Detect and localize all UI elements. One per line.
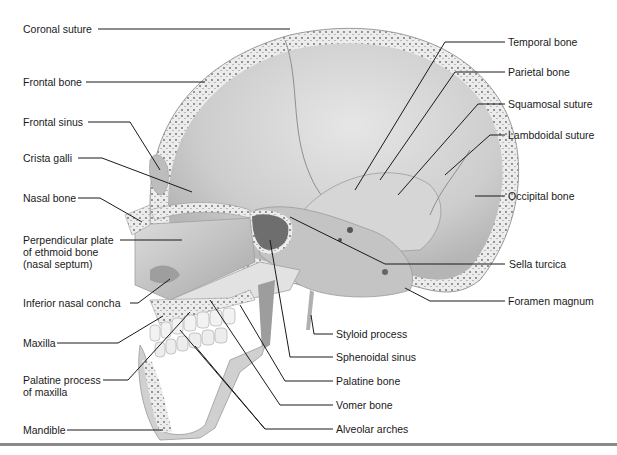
label-sphenoidal-sinus: Sphenoidal sinus bbox=[336, 351, 416, 363]
label-palatine-process: Palatine process of maxilla bbox=[23, 374, 101, 398]
skull-diagram: Coronal suture Frontal bone Frontal sinu… bbox=[0, 0, 617, 455]
label-coronal-suture: Coronal suture bbox=[23, 23, 92, 35]
label-styloid-process: Styloid process bbox=[336, 328, 407, 340]
label-maxilla: Maxilla bbox=[23, 337, 56, 349]
label-sella-turcica: Sella turcica bbox=[509, 258, 566, 270]
label-frontal-sinus: Frontal sinus bbox=[23, 116, 83, 128]
label-alveolar-arches: Alveolar arches bbox=[336, 423, 408, 435]
label-inferior-nasal-concha: Inferior nasal concha bbox=[23, 297, 120, 309]
label-perpendicular-plate: Perpendicular plate of ethmoid bone (nas… bbox=[23, 234, 113, 270]
label-temporal-bone: Temporal bone bbox=[508, 36, 577, 48]
label-crista-galli: Crista galli bbox=[23, 152, 72, 164]
label-foramen-magnum: Foramen magnum bbox=[508, 295, 594, 307]
bottom-rule bbox=[0, 443, 617, 446]
label-squamosal-suture: Squamosal suture bbox=[508, 98, 593, 110]
label-vomer-bone: Vomer bone bbox=[336, 399, 393, 411]
label-frontal-bone: Frontal bone bbox=[23, 76, 82, 88]
label-nasal-bone: Nasal bone bbox=[23, 192, 76, 204]
label-parietal-bone: Parietal bone bbox=[508, 66, 570, 78]
label-lambdoidal-suture: Lambdoidal suture bbox=[508, 129, 594, 141]
label-palatine-bone: Palatine bone bbox=[336, 375, 400, 387]
label-mandible: Mandible bbox=[23, 424, 66, 436]
label-occipital-bone: Occipital bone bbox=[508, 190, 575, 202]
